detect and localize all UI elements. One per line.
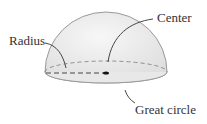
hemisphere-diagram: Center Radius Great circle (0, 0, 207, 124)
great-circle-label: Great circle (135, 102, 196, 117)
great-circle-arrow (125, 90, 135, 103)
radius-label: Radius (9, 33, 45, 48)
center-point (103, 71, 109, 74)
center-label: Center (157, 10, 192, 25)
